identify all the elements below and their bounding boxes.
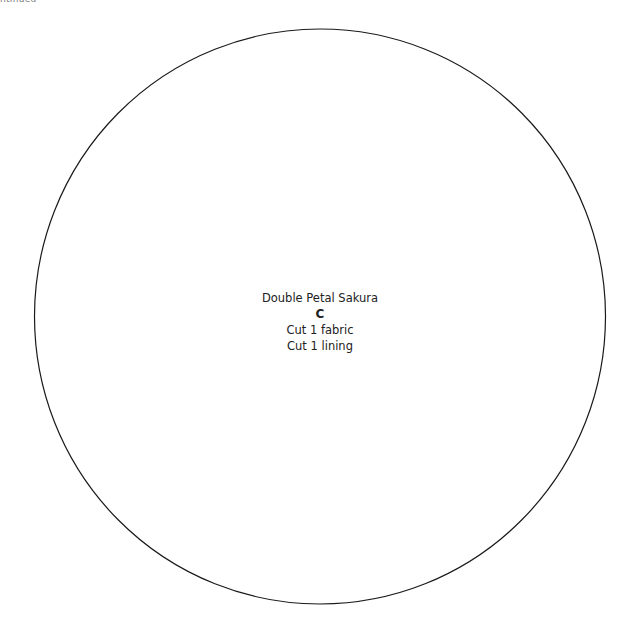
cut-instruction-fabric: Cut 1 fabric: [200, 322, 440, 338]
cut-instruction-lining: Cut 1 lining: [200, 338, 440, 354]
pattern-letter: C: [200, 306, 440, 322]
pattern-name: Double Petal Sakura: [200, 290, 440, 306]
pattern-piece-labels: Double Petal Sakura C Cut 1 fabric Cut 1…: [200, 290, 440, 354]
